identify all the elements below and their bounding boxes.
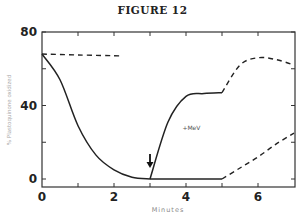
y-tick-label: 0 <box>29 172 37 186</box>
data-series <box>42 54 294 179</box>
series-line <box>42 54 121 56</box>
y-tick-label: 80 <box>20 25 37 39</box>
series-line <box>222 57 294 92</box>
x-axis-label: Minutes <box>152 206 185 214</box>
y-tick-label: 40 <box>20 99 37 113</box>
x-tick-label: 0 <box>38 190 46 204</box>
x-tick-label: 2 <box>110 190 118 204</box>
arrow-head-icon <box>147 162 154 168</box>
series-line <box>42 54 150 179</box>
chart-plot: 024604080 +MeV Minutes % Plastoquinone o… <box>0 0 305 219</box>
x-tick-label: 4 <box>182 190 190 204</box>
series-line <box>150 93 222 179</box>
mev-annotation: +MeV <box>182 124 201 131</box>
series-line <box>222 133 294 179</box>
y-axis-label: % Plastoquinone oxidized <box>6 75 13 145</box>
x-tick-label: 6 <box>254 190 262 204</box>
